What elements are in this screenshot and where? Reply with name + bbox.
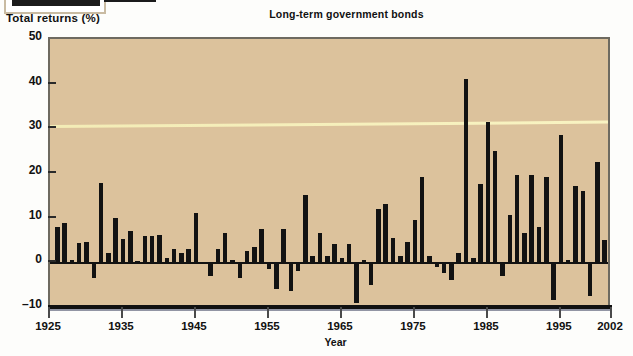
bar-1987	[500, 262, 505, 275]
bar-1963	[325, 256, 330, 263]
bar-1927	[62, 223, 67, 263]
bar-1930	[84, 242, 89, 262]
bar-1962	[318, 233, 323, 262]
bar-1999	[588, 262, 593, 296]
clipped-panel-bar	[12, 0, 100, 6]
bar-1936	[128, 231, 133, 262]
bar-1986	[493, 151, 498, 263]
x-tick-1995	[559, 307, 561, 318]
bar-1964	[332, 244, 337, 262]
bar-1935	[121, 239, 126, 263]
bar-1979	[442, 262, 447, 273]
bar-1932	[99, 183, 104, 263]
bar-2001	[602, 240, 607, 262]
y-tick-label-10: 10	[2, 208, 42, 222]
bar-1954	[259, 229, 264, 263]
bar-1947	[208, 262, 213, 275]
x-tick-label-1925: 1925	[35, 320, 61, 332]
bar-1998	[581, 191, 586, 262]
bar-1945	[194, 213, 199, 262]
bar-1958	[289, 262, 294, 291]
bar-1993	[544, 177, 549, 262]
bar-1934	[113, 218, 118, 263]
bar-1931	[92, 262, 97, 278]
scan-streak	[50, 121, 608, 128]
y-tick-label-30: 30	[2, 118, 42, 132]
x-axis-title: Year	[0, 336, 633, 348]
bar-1976	[420, 177, 425, 262]
x-tick-1965	[340, 307, 342, 318]
bar-1944	[186, 249, 191, 262]
y-tick-10	[48, 216, 56, 218]
x-tick-2002	[610, 307, 612, 318]
clipped-panel-bar-right	[104, 0, 156, 2]
y-tick-0	[48, 260, 56, 262]
x-tick-label-2002: 2002	[597, 320, 623, 332]
y-tick-label-40: 40	[2, 74, 42, 88]
x-tick-1975	[413, 307, 415, 318]
bar-1929	[77, 243, 82, 263]
bar-1939	[150, 236, 155, 263]
bar-1940	[157, 235, 162, 263]
bar-1975	[413, 220, 418, 262]
x-tick-label-1995: 1995	[546, 320, 572, 332]
bar-1951	[238, 262, 243, 278]
x-tick-label-1945: 1945	[181, 320, 207, 332]
y-tick-label-0: 0	[2, 252, 42, 266]
bar-1974	[405, 242, 410, 262]
bar-1988	[508, 215, 513, 262]
bar-1997	[573, 186, 578, 262]
x-tick-label-1955: 1955	[254, 320, 280, 332]
x-axis-line-shadow	[48, 309, 612, 311]
x-tick-1955	[267, 307, 269, 318]
bar-1926	[55, 227, 60, 262]
bar-1943	[179, 253, 184, 262]
bar-1956	[274, 262, 279, 289]
bar-1949	[223, 233, 228, 262]
chart-title: Long-term government bonds	[0, 8, 633, 20]
bar-1995	[559, 135, 564, 262]
bar-1980	[449, 262, 454, 280]
bar-1972	[391, 238, 396, 263]
y-tick-40	[48, 82, 56, 84]
bar-1933	[106, 253, 111, 262]
bar-1971	[383, 204, 388, 262]
bar-1957	[281, 229, 286, 263]
x-tick-label-1985: 1985	[473, 320, 499, 332]
bar-1938	[143, 236, 148, 263]
bar-2000	[595, 162, 600, 263]
bar-1969	[369, 262, 374, 284]
bar-1994	[551, 262, 556, 300]
y-tick-30	[48, 126, 56, 128]
y-tick-label--10: –10	[2, 297, 42, 311]
bar-1966	[347, 244, 352, 262]
zero-line	[50, 262, 610, 264]
bar-1953	[252, 247, 257, 263]
bar-1952	[245, 251, 250, 262]
bar-1977	[427, 256, 432, 263]
bar-1973	[398, 256, 403, 263]
x-tick-1935	[121, 307, 123, 318]
x-tick-label-1965: 1965	[327, 320, 353, 332]
bar-1967	[354, 262, 359, 302]
y-tick-label-50: 50	[2, 29, 42, 43]
bar-1990	[522, 233, 527, 262]
y-tick-20	[48, 171, 56, 173]
bar-1960	[303, 195, 308, 262]
bar-1982	[464, 79, 469, 262]
bar-1989	[515, 175, 520, 262]
bar-1985	[486, 122, 491, 263]
bar-1992	[537, 227, 542, 263]
figure-container: Total returns (%) Long-term government b…	[0, 0, 633, 356]
bar-1981	[456, 253, 461, 262]
bar-1970	[376, 209, 381, 263]
x-tick-label-1935: 1935	[108, 320, 134, 332]
bar-1991	[529, 175, 534, 262]
y-tick-label-20: 20	[2, 163, 42, 177]
bar-1961	[310, 256, 315, 263]
x-tick-1945	[194, 307, 196, 318]
bar-1948	[216, 249, 221, 262]
x-tick-label-1975: 1975	[400, 320, 426, 332]
x-tick-1985	[486, 307, 488, 318]
plot-area	[48, 37, 610, 305]
